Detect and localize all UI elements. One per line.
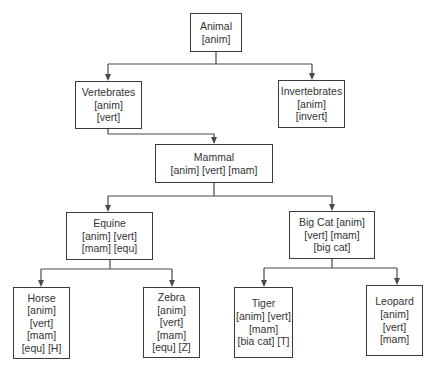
node-title: Equine: [93, 217, 126, 230]
arrowhead-icon: [105, 74, 111, 81]
arrowhead-icon: [329, 204, 335, 211]
connector-equine-split: [41, 260, 172, 285]
node-horse: Horse [anim] [vert] [mam] [equ] [H]: [13, 287, 70, 359]
arrowhead-icon: [169, 280, 175, 287]
connector-vert-to-mammal: [108, 129, 214, 142]
node-tag: [anim]: [94, 99, 123, 112]
node-tag: [mam] [equ]: [82, 242, 137, 255]
node-tag: [bia cat] [T]: [238, 335, 290, 348]
node-leopard: Leopard [anim] [vert] [mam]: [366, 285, 423, 356]
taxonomy-tree-diagram: Animal [anim] Vertebrates [anim] [vert] …: [0, 0, 438, 373]
node-tag: [big cat]: [314, 241, 351, 254]
arrowhead-icon: [309, 73, 315, 80]
node-title: Tiger: [252, 297, 276, 310]
connector-animal-split: [108, 52, 312, 79]
node-title: Zebra: [158, 291, 185, 304]
node-tag: [anim] [vert]: [236, 310, 291, 323]
node-tiger: Tiger [anim] [vert] [mam] [bia cat] [T]: [234, 287, 293, 358]
arrowhead-icon: [105, 205, 111, 212]
node-tag: [anim] [vert] [mam]: [171, 164, 258, 177]
node-big-cat: Big Cat [anim] [vert] [mam] [big cat]: [289, 211, 375, 259]
node-tag: [invert]: [296, 110, 328, 123]
node-title: Horse: [27, 292, 55, 305]
arrowhead-icon: [261, 280, 267, 287]
node-tag: [vert] [mam]: [304, 229, 359, 242]
node-tag: [mam]: [27, 329, 56, 342]
node-tag: [vert]: [383, 321, 406, 334]
node-title: Vertebrates: [82, 86, 136, 99]
node-title: Leopard: [375, 295, 414, 308]
node-title: Invertebrates: [281, 85, 342, 98]
node-animal: Animal [anim]: [190, 13, 242, 52]
node-tag: [mam]: [380, 333, 409, 346]
node-tag: [vert]: [97, 111, 120, 124]
arrowhead-icon: [211, 137, 217, 144]
node-tag: [equ] [H]: [22, 342, 62, 355]
node-tag: [anim]: [202, 33, 231, 46]
node-mammal: Mammal [anim] [vert] [mam]: [155, 144, 273, 183]
node-tag: [anim]: [27, 304, 56, 317]
connector-bigcat-split: [264, 259, 397, 285]
node-tag: [anim]: [380, 308, 409, 321]
node-zebra: Zebra [anim] [vert] [mam] [equ] [Z]: [143, 287, 200, 358]
arrowhead-icon: [38, 280, 44, 287]
node-title: Big Cat [anim]: [299, 216, 365, 229]
arrowhead-icon: [394, 278, 400, 285]
node-title: Animal: [200, 20, 232, 33]
node-tag: [anim]: [297, 98, 326, 111]
node-tag: [anim] [vert]: [82, 230, 137, 243]
connector-mammal-split: [108, 183, 332, 210]
node-equine: Equine [anim] [vert] [mam] [equ]: [66, 212, 153, 260]
node-tag: [vert]: [30, 317, 53, 330]
node-tag: [equ] [Z]: [152, 341, 191, 354]
node-tag: [mam]: [157, 329, 186, 342]
node-tag: [vert]: [160, 316, 183, 329]
node-tag: [mam]: [249, 323, 278, 336]
node-vertebrates: Vertebrates [anim] [vert]: [75, 81, 142, 129]
node-title: Mammal: [194, 151, 234, 164]
node-tag: [anim]: [157, 304, 186, 317]
node-invertebrates: Invertebrates [anim] [invert]: [278, 80, 345, 128]
